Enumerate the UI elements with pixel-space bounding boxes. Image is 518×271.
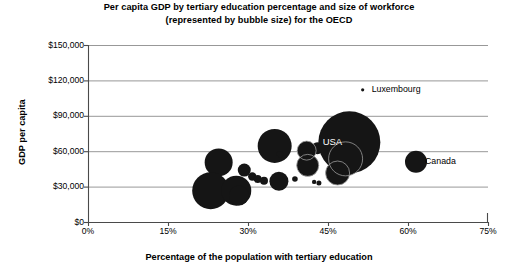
plot-area: USA <box>0 0 518 271</box>
annotation-label-luxembourg: Luxembourg <box>372 84 421 94</box>
data-bubble <box>292 176 298 182</box>
data-bubble <box>229 185 249 205</box>
data-bubble <box>361 88 364 91</box>
data-bubble <box>316 181 321 186</box>
data-bubble <box>269 172 288 191</box>
data-bubble <box>277 151 283 157</box>
annotation-label-usa: USA <box>323 136 343 147</box>
data-bubble <box>312 180 316 184</box>
data-bubble <box>205 148 233 176</box>
annotation-label-canada: Canada <box>425 156 456 166</box>
data-bubble <box>260 177 268 185</box>
data-bubble <box>258 129 292 163</box>
data-bubble <box>405 151 427 173</box>
bubble-chart: Per capita GDP by tertiary education per… <box>0 0 518 271</box>
